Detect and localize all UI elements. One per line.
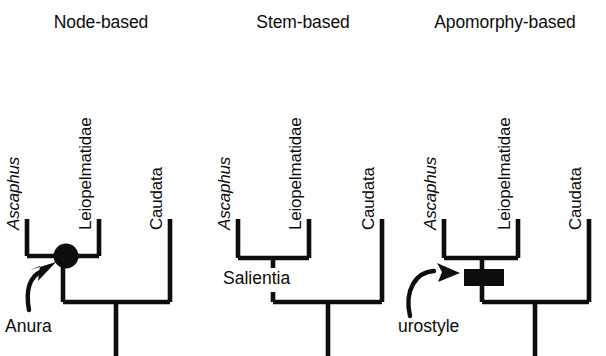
figure-root: Node-based Ascaphus Leiopelmatidae Cauda…: [0, 0, 606, 356]
panel-node-based: Node-based Ascaphus Leiopelmatidae Cauda…: [0, 0, 202, 356]
cladogram-stem-based: [202, 0, 404, 356]
panel-apomorphy-based: Apomorphy-based Ascaphus Leiopelmatidae …: [404, 0, 606, 356]
apomorphy-marker-urostyle: [464, 269, 504, 286]
annotation-arrow-curve: [408, 271, 434, 316]
annotation-label-urostyle: urostyle: [398, 316, 459, 336]
node-marker-anura: [54, 244, 79, 269]
clade-label-salientia: Salientia: [223, 268, 290, 288]
annotation-label-anura: Anura: [5, 316, 52, 336]
panel-stem-based: Stem-based Ascaphus Leiopelmatidae Cauda…: [202, 0, 404, 356]
annotation-arrow-head: [437, 263, 460, 282]
cladogram-apomorphy-based: [404, 0, 606, 356]
cladogram-node-based: [0, 0, 202, 356]
